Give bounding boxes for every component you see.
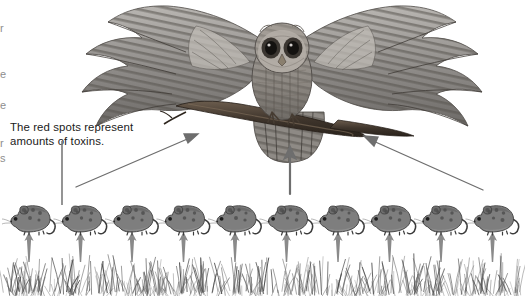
annotation-leader-line: [0, 0, 525, 304]
diagram-canvas: r e e r s: [0, 0, 525, 304]
